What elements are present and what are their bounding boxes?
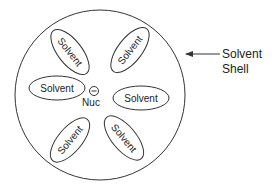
shell-label-line1: Solvent — [222, 47, 263, 61]
solvent-molecule: Solvent — [97, 110, 150, 167]
solvent-label: Solvent — [124, 93, 158, 104]
solvent-label: Solvent — [109, 122, 139, 155]
solvent-shell-circle — [15, 10, 185, 180]
solvent-label: Solvent — [55, 124, 85, 157]
solvent-molecule: Solvent — [44, 23, 96, 80]
solvent-label: Solvent — [55, 35, 84, 68]
solvent-molecule: Solvent — [29, 76, 85, 100]
solvent-molecule: Solvent — [113, 86, 169, 110]
nucleophile-label: Nuc — [82, 97, 100, 108]
solvent-molecule: Solvent — [104, 21, 156, 78]
solvent-molecule: Solvent — [43, 112, 96, 169]
shell-label-line2: Shell — [222, 62, 249, 76]
negative-charge-icon — [90, 87, 99, 96]
solvent-label: Solvent — [40, 83, 74, 94]
solvation-diagram: Solvent Solvent Solvent Solvent Solvent … — [0, 0, 272, 188]
solvent-label: Solvent — [115, 33, 144, 66]
